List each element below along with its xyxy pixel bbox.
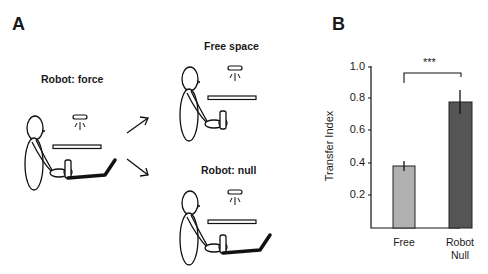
bar-chart	[368, 66, 472, 228]
arrow-up-icon	[127, 117, 148, 133]
x-label-line: Null	[451, 249, 469, 261]
panel-b-label: B	[332, 14, 345, 35]
y-tick: 0.6	[341, 123, 365, 135]
y-tick: 0.2	[341, 188, 365, 200]
x-label-robot-null: Robot Null	[435, 236, 485, 262]
x-label-line: Free	[393, 236, 415, 248]
y-tick: 1.0	[341, 60, 365, 72]
panel-a-illustrations	[0, 0, 488, 274]
bar-free	[393, 166, 415, 228]
scene-free-space	[180, 66, 256, 141]
significance-stars: ***	[423, 56, 436, 68]
bar-robot-null	[449, 102, 472, 228]
arrow-down-icon	[127, 159, 148, 176]
x-label-line: Robot	[446, 236, 474, 248]
scene-robot-null	[180, 190, 270, 265]
scene-robot-force	[25, 115, 115, 190]
x-label-free: Free	[379, 236, 429, 249]
y-tick: 0.4	[341, 156, 365, 168]
y-axis-label: Transfer Index	[323, 111, 335, 182]
y-tick: 0.8	[341, 91, 365, 103]
